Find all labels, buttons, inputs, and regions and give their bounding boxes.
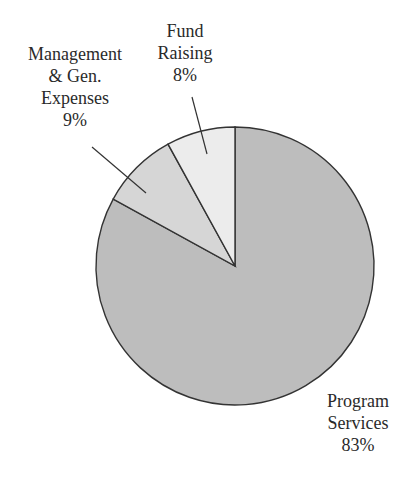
label-management-expenses: Management & Gen. Expenses 9% — [10, 43, 140, 131]
label-fund-raising: Fund Raising 8% — [145, 20, 225, 86]
label-program-services: Program Services 83% — [308, 390, 408, 456]
